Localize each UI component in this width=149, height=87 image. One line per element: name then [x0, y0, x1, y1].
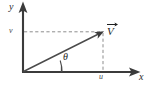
vector-overarrow-icon: [106, 20, 119, 27]
horizontal-component-label: u: [99, 73, 103, 81]
angle-theta-label: θ: [63, 52, 68, 62]
vector-diagram: y x v u θ V: [0, 0, 149, 87]
x-axis-label: x: [139, 72, 143, 82]
diagram-canvas: [0, 0, 149, 87]
vector-label: V: [106, 20, 119, 37]
vector-label-text: V: [106, 26, 119, 37]
y-axis-label: y: [9, 2, 13, 12]
vertical-component-label: v: [9, 27, 13, 35]
